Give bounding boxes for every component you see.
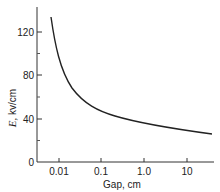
x-axis-label: Gap, cm xyxy=(103,179,141,190)
y-axis-unit: kv/cm xyxy=(7,89,18,118)
breakdown-curve xyxy=(51,17,212,134)
chart: 120 80 40 0 0.01 0.1 1.0 10 Gap, cm E, k… xyxy=(0,0,220,192)
y-ticks xyxy=(37,32,42,141)
x-ticks xyxy=(59,158,187,162)
x-tick-0.1: 0.1 xyxy=(94,166,108,177)
y-tick-80: 80 xyxy=(23,70,35,81)
y-tick-40: 40 xyxy=(23,114,35,125)
x-tick-10: 10 xyxy=(181,166,193,177)
y-axis-label: E, kv/cm xyxy=(6,89,18,128)
x-tick-0.01: 0.01 xyxy=(49,166,69,177)
y-axis-symbol: E, xyxy=(6,117,18,128)
x-tick-1.0: 1.0 xyxy=(137,166,151,177)
y-tick-0: 0 xyxy=(28,157,34,168)
y-tick-120: 120 xyxy=(17,27,34,38)
